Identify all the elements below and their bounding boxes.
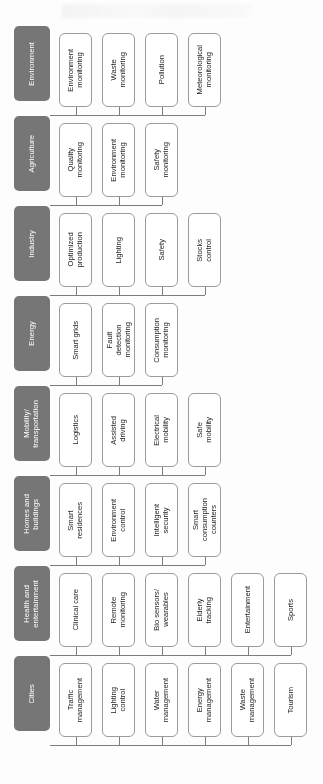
connector-stem [119, 287, 120, 295]
leaf-node-label: Safety monitoring [151, 139, 171, 180]
leaf-node-label: Entertainment [242, 583, 253, 636]
leaf-node-label: Tourism [285, 684, 296, 717]
leaf-node[interactable]: Water management [145, 663, 178, 737]
category-header-label: Industry [28, 230, 37, 258]
category-row: EnergySmart gridsFault detection monitor… [0, 296, 323, 384]
category-row: Mobility/ transportationLogisticsAssiste… [0, 386, 323, 474]
connector-stem [76, 737, 77, 745]
leaf-node[interactable]: Intelligent security [145, 483, 178, 557]
connector-stem [76, 107, 77, 115]
leaf-node[interactable]: Pollution [145, 33, 178, 107]
leaf-node[interactable]: Consumption monitoring [145, 303, 178, 377]
connector-stem [162, 377, 163, 385]
leaf-node[interactable]: Quality monitoring [59, 123, 92, 197]
leaf-node-label: Consumption monitoring [151, 315, 171, 366]
connector-stem [119, 377, 120, 385]
category-header-cities[interactable]: Cities [14, 656, 50, 731]
category-row: CitiesTraffic managementLighting control… [0, 656, 323, 744]
leaf-node[interactable]: Remote monitoring [102, 573, 135, 647]
leaf-node[interactable]: Safe mobility [188, 393, 221, 467]
category-header-environment[interactable]: Environment [14, 26, 50, 101]
connector-stem [205, 107, 206, 115]
leaf-node[interactable]: Elderly tracking [188, 573, 221, 647]
leaf-node[interactable]: Smart consumption counters [188, 483, 221, 557]
leaf-node-label: Waste management [237, 675, 257, 725]
connector-stem [119, 737, 120, 745]
scan-artifact [62, 4, 252, 18]
leaf-node-label: Environment monitoring [108, 136, 128, 185]
leaf-node-label: Quality monitoring [65, 139, 85, 180]
leaf-node[interactable]: Meteorological monitoring [188, 33, 221, 107]
connector-stem [119, 197, 120, 205]
category-header-industry[interactable]: Industry [14, 206, 50, 281]
leaf-node-label: Remote monitoring [108, 589, 128, 630]
connector-stem [205, 287, 206, 295]
category-header-label: Health and entertainment [23, 580, 41, 628]
leaf-node-label: Intelligent security [151, 501, 171, 540]
leaf-node[interactable]: Safety [145, 213, 178, 287]
leaf-node[interactable]: Lighting [102, 213, 135, 287]
leaf-node-label: Meteorological monitoring [194, 42, 214, 97]
connector-stem [119, 467, 120, 475]
leaf-node-label: Sports [285, 596, 296, 624]
connector-stem [205, 467, 206, 475]
connector-stem [76, 557, 77, 565]
leaf-node-label: Fault detection monitoring [104, 319, 133, 360]
leaf-node-label: Elderly tracking [194, 594, 214, 627]
leaf-node-label: Environment control [108, 496, 128, 545]
category-header-homes-and-buildings[interactable]: Homes and buildings [14, 476, 50, 551]
leaf-node[interactable]: Traffic management [59, 663, 92, 737]
leaf-node-label: Smart grids [70, 318, 81, 363]
leaf-node[interactable]: Optimized production [59, 213, 92, 287]
leaf-node[interactable]: Smart grids [59, 303, 92, 377]
leaf-node[interactable]: Lighting control [102, 663, 135, 737]
leaf-node-label: Waste monitoring [108, 49, 128, 90]
leaf-node[interactable]: Environment monitoring [59, 33, 92, 107]
leaf-node[interactable]: Environment monitoring [102, 123, 135, 197]
category-header-agriculture[interactable]: Agriculture [14, 116, 50, 191]
category-header-mobility-transportation[interactable]: Mobility/ transportation [14, 386, 50, 461]
connector-stem [119, 647, 120, 655]
leaf-node[interactable]: Smart residences [59, 483, 92, 557]
connector-stem [162, 737, 163, 745]
connector-trunk [50, 745, 291, 746]
leaf-node[interactable]: Waste management [231, 663, 264, 737]
leaf-node[interactable]: Sports [274, 573, 307, 647]
leaf-node-label: Environment monitoring [65, 46, 85, 95]
leaf-node[interactable]: Logistics [59, 393, 92, 467]
connector-stem [162, 557, 163, 565]
category-row: EnvironmentEnvironment monitoringWaste m… [0, 26, 323, 114]
leaf-node-label: Bio sensors/ wearables [151, 586, 171, 634]
connector-stem [248, 647, 249, 655]
connector-stem [162, 467, 163, 475]
category-header-label: Energy [28, 321, 37, 346]
leaf-node[interactable]: Energy management [188, 663, 221, 737]
leaf-node-label: Lighting [113, 234, 124, 267]
leaf-node[interactable]: Environment control [102, 483, 135, 557]
category-header-energy[interactable]: Energy [14, 296, 50, 371]
connector-stem [205, 557, 206, 565]
leaf-node[interactable]: Electrical mobility [145, 393, 178, 467]
leaf-node[interactable]: Bio sensors/ wearables [145, 573, 178, 647]
leaf-node[interactable]: Stocks control [188, 213, 221, 287]
category-header-label: Mobility/ transportation [23, 400, 41, 448]
leaf-node-label: Clinical care [70, 586, 81, 633]
category-row: Health and entertainmentClinical careRem… [0, 566, 323, 654]
leaf-node[interactable]: Entertainment [231, 573, 264, 647]
leaf-node[interactable]: Waste monitoring [102, 33, 135, 107]
category-header-label: Homes and buildings [23, 494, 41, 534]
connector-stem [76, 197, 77, 205]
leaf-node[interactable]: Tourism [274, 663, 307, 737]
leaf-node-label: Water management [151, 675, 171, 725]
category-header-label: Environment [28, 42, 37, 86]
category-row: AgricultureQuality monitoringEnvironment… [0, 116, 323, 204]
connector-stem [119, 557, 120, 565]
leaf-node[interactable]: Clinical care [59, 573, 92, 647]
leaf-node-label: Safety [156, 236, 167, 264]
connector-stem [205, 647, 206, 655]
connector-stem [291, 647, 292, 655]
leaf-node[interactable]: Assisted driving [102, 393, 135, 467]
leaf-node[interactable]: Safety monitoring [145, 123, 178, 197]
category-header-health-and-entertainment[interactable]: Health and entertainment [14, 566, 50, 641]
leaf-node[interactable]: Fault detection monitoring [102, 303, 135, 377]
